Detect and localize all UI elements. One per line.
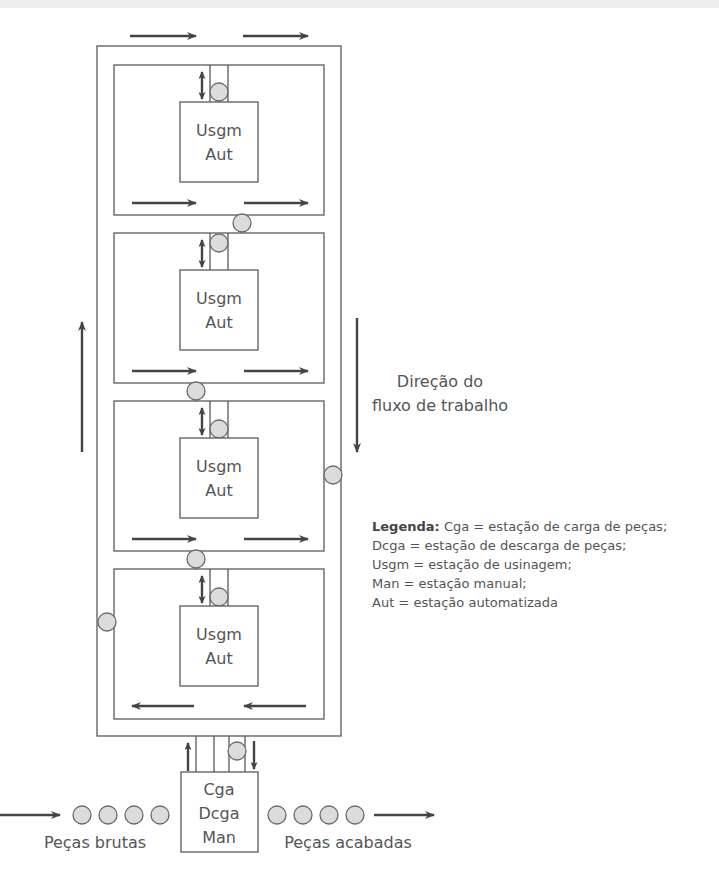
- station-label-line1: Usgm: [196, 457, 242, 476]
- load-station-label-line3: Man: [202, 828, 236, 847]
- station-label-line2: Aut: [205, 145, 232, 164]
- load-station-label-line2: Dcga: [198, 804, 239, 823]
- legend-item: Aut = estação automatizada: [372, 593, 667, 612]
- legend: Legenda: Cga = estação de carga de peças…: [372, 517, 667, 612]
- workpart-icon: [210, 588, 228, 606]
- workpart-icon: [228, 742, 246, 760]
- load-station-label-line1: Cga: [203, 780, 234, 799]
- machining-station-box: [180, 438, 258, 518]
- station-label-line2: Aut: [205, 481, 232, 500]
- legend-item: Usgm = estação de usinagem;: [372, 555, 667, 574]
- station-label-line2: Aut: [205, 313, 232, 332]
- workpart-icon: [210, 420, 228, 438]
- raw-parts-label: Peças brutas: [44, 833, 146, 852]
- legend-item: Dcga = estação de descarga de peças;: [372, 536, 667, 555]
- workpart-icon: [187, 382, 205, 400]
- workpart-icon: [294, 806, 312, 824]
- load-unload-station: Cga Dcga Man: [181, 772, 258, 852]
- station-cell-2: Usgm Aut: [114, 233, 324, 383]
- station-label-line1: Usgm: [196, 625, 242, 644]
- finished-parts-label: Peças acabadas: [284, 833, 412, 852]
- workpart-icon: [324, 466, 342, 484]
- workpart-icon: [210, 83, 228, 101]
- workpart-icon: [268, 806, 286, 824]
- machining-station-box: [180, 270, 258, 350]
- workpart-icon: [98, 613, 116, 631]
- station-label-line2: Aut: [205, 649, 232, 668]
- legend-item: Man = estação manual;: [372, 574, 667, 593]
- station-label-line1: Usgm: [196, 121, 242, 140]
- legend-title: Legenda:: [372, 519, 440, 534]
- raw-parts-queue: Peças brutas: [0, 806, 169, 852]
- station-cell-4: Usgm Aut: [114, 569, 324, 719]
- machining-station-box: [180, 102, 258, 182]
- workpart-icon: [125, 806, 143, 824]
- flow-direction-label-line1: Direção do: [397, 372, 483, 391]
- workpart-icon: [346, 806, 364, 824]
- station-cell-1: Usgm Aut: [114, 65, 324, 215]
- legend-item: Legenda: Cga = estação de carga de peças…: [372, 517, 667, 536]
- legend-item-text: Cga = estação de carga de peças;: [444, 519, 667, 534]
- workpart-icon: [210, 234, 228, 252]
- station-cell-3: Usgm Aut: [114, 401, 324, 551]
- workpart-icon: [151, 806, 169, 824]
- workpart-icon: [99, 806, 117, 824]
- finished-parts-queue: Peças acabadas: [268, 806, 434, 852]
- workpart-icon: [187, 550, 205, 568]
- workpart-icon: [320, 806, 338, 824]
- load-unload-chute: [188, 736, 254, 772]
- workpart-icon: [233, 214, 251, 232]
- machining-station-box: [180, 606, 258, 686]
- flow-direction-label-line2: fluxo de trabalho: [372, 396, 508, 415]
- workpart-icon: [73, 806, 91, 824]
- station-label-line1: Usgm: [196, 289, 242, 308]
- manufacturing-cell-diagram: Usgm Aut Usgm Aut Usgm Aut: [0, 0, 719, 870]
